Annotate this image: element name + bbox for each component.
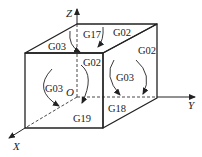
plane-label-g19: G19 xyxy=(73,113,91,124)
x-axis-hidden xyxy=(25,97,77,128)
origin-label: O xyxy=(66,86,74,98)
arc-label-right-ccw: G03 xyxy=(116,72,134,83)
x-axis-label: X xyxy=(12,140,21,152)
arc-label-right-cw: G02 xyxy=(138,45,156,56)
plane-label-g17: G17 xyxy=(83,29,101,40)
arc-label-top-left: G03 xyxy=(48,41,66,52)
cube-diagram: Z Y X O G17 G18 G19 G03 G02 G02 G03 G02 … xyxy=(0,0,202,157)
y-axis-label: Y xyxy=(188,99,196,111)
axis-arrows xyxy=(9,9,195,138)
plane-label-g18: G18 xyxy=(108,103,126,114)
x-axis-arrow xyxy=(9,128,25,138)
arc-label-front-ccw: G03 xyxy=(45,83,63,94)
arc-top-left-icon xyxy=(70,31,80,52)
arc-label-front-cw: G02 xyxy=(83,57,101,68)
arc-right-cw-icon xyxy=(136,60,147,94)
arc-label-top-right: G02 xyxy=(113,27,131,38)
z-axis-label: Z xyxy=(66,7,73,19)
